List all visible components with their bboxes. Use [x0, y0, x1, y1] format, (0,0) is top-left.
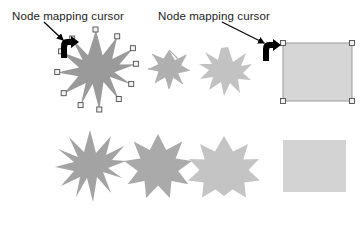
- node-handle[interactable]: [93, 27, 98, 32]
- spiky-star-long-points[interactable]: [55, 130, 126, 202]
- twisted-star-small[interactable]: [148, 50, 190, 89]
- annotation-label-left: Node mapping cursor: [12, 10, 124, 22]
- square-shape[interactable]: [283, 43, 352, 101]
- node-handle[interactable]: [130, 46, 135, 51]
- leader-line-left: [44, 22, 63, 40]
- star-shape[interactable]: [199, 47, 252, 96]
- star-medium-points[interactable]: [124, 134, 192, 198]
- star-shape[interactable]: [188, 136, 260, 198]
- leader-line-right: [222, 22, 264, 43]
- node-handle[interactable]: [116, 97, 121, 102]
- star-blunt-points[interactable]: [188, 136, 260, 198]
- node-handle[interactable]: [115, 34, 120, 39]
- node-handle[interactable]: [281, 99, 286, 104]
- selected-square[interactable]: [281, 41, 355, 104]
- node-handle[interactable]: [350, 41, 355, 46]
- node-handle[interactable]: [281, 41, 286, 46]
- plain-square[interactable]: [283, 140, 346, 192]
- square-shape[interactable]: [283, 140, 346, 192]
- node-handle[interactable]: [55, 70, 60, 75]
- node-mapping-figure: Node mapping cursor Node mapping cursor: [0, 0, 361, 230]
- annotation-label-right: Node mapping cursor: [158, 10, 270, 22]
- irregular-jagged-blob[interactable]: [199, 47, 252, 96]
- node-handle[interactable]: [97, 107, 102, 112]
- node-mapping-cursor-right: [263, 39, 281, 61]
- node-handle[interactable]: [350, 99, 355, 104]
- node-handle[interactable]: [133, 61, 138, 66]
- star-shape[interactable]: [55, 130, 126, 202]
- figure-canvas: [0, 0, 361, 230]
- node-handle[interactable]: [61, 91, 66, 96]
- star-shape[interactable]: [124, 134, 192, 198]
- node-handle[interactable]: [78, 103, 83, 108]
- node-handle[interactable]: [129, 81, 134, 86]
